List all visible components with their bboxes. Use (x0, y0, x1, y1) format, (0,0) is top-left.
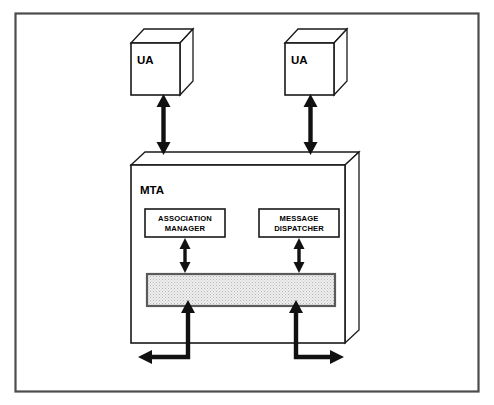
arrow-head-left (138, 350, 152, 364)
mta-label: MTA (140, 184, 164, 196)
shared-bus-bar (147, 274, 335, 306)
block-diagram-figure: UA UA MTA ASSOCIATION MANAGER MESSAGE DI… (0, 0, 494, 405)
message-dispatcher-label-line1: MESSAGE (279, 214, 318, 223)
message-dispatcher-label-line2: DISPATCHER (274, 224, 324, 233)
connector-ua-left-to-mta (157, 94, 171, 155)
arrow-head-up (304, 94, 318, 107)
arrow-head-up (157, 94, 171, 107)
association-manager-label-line2: MANAGER (165, 224, 206, 233)
ua-right-label: UA (291, 54, 308, 66)
arrow-head-right (330, 350, 344, 364)
diagram-canvas: UA UA MTA ASSOCIATION MANAGER MESSAGE DI… (0, 0, 494, 405)
ua-right-front-face (285, 43, 334, 95)
node-ua-left: UA (131, 29, 193, 95)
mta-top-face (131, 152, 359, 165)
node-association-manager: ASSOCIATION MANAGER (145, 209, 225, 237)
mta-side-face (345, 152, 359, 343)
node-message-dispatcher: MESSAGE DISPATCHER (259, 209, 339, 237)
node-mta: MTA (131, 152, 359, 343)
ua-left-front-face (131, 43, 180, 95)
association-manager-label-line1: ASSOCIATION (158, 214, 212, 223)
connector-ua-right-to-mta (304, 94, 318, 155)
node-ua-right: UA (285, 29, 347, 95)
ua-left-label: UA (137, 54, 154, 66)
